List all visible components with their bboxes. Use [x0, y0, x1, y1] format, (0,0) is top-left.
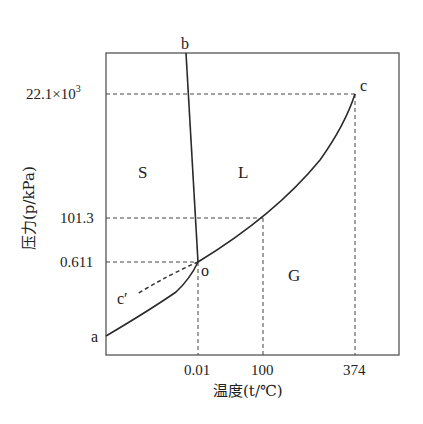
- guide-lines: [106, 94, 355, 355]
- region-label-liquid: L: [238, 163, 248, 182]
- point-label-c: c: [360, 77, 367, 94]
- point-label-a: a: [91, 328, 98, 345]
- phase-diagram: b c o a c′ S L G 22.1×103 101.3 0.611 0.…: [0, 0, 423, 424]
- curve-ob: [186, 53, 198, 262]
- y-tick-0611: 0.611: [60, 254, 93, 270]
- x-tick-374: 374: [343, 362, 366, 378]
- region-label-solid: S: [138, 163, 147, 182]
- curve-oc: [198, 94, 355, 262]
- x-tick-001: 0.01: [184, 362, 210, 378]
- point-label-b: b: [181, 35, 189, 52]
- x-axis-title: 温度(t/℃): [213, 382, 283, 400]
- point-label-o: o: [201, 262, 209, 279]
- x-tick-100: 100: [251, 362, 274, 378]
- y-tick-101: 101.3: [60, 210, 94, 226]
- region-label-gas: G: [288, 266, 300, 285]
- y-tick-critical: 22.1×103: [26, 83, 81, 102]
- y-axis-title: 压力(p/kPa): [20, 166, 38, 250]
- point-label-c-prime: c′: [117, 290, 128, 307]
